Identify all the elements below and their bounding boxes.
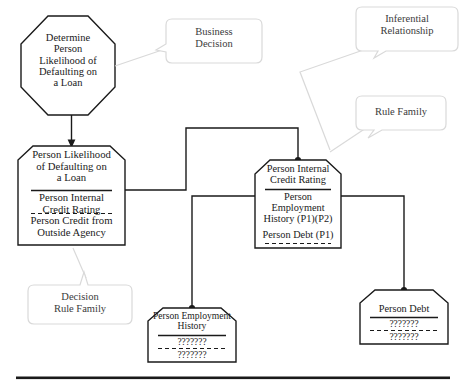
connector-credit-rating-to-employment (192, 196, 255, 308)
node-shape-person-internal-credit-rating[interactable] (255, 160, 341, 248)
diagram-canvas: Determine Person Likelihood of Defaultin… (0, 0, 466, 390)
callout-label-inferential-relationship: Inferential Relationship (356, 13, 458, 38)
callout-label-decision-rule-family: Decision Rule Family (28, 291, 132, 316)
bottom-divider (16, 377, 450, 380)
callout-label-business-decision: Business Decision (166, 26, 262, 51)
callout-label-rule-family: Rule Family (356, 106, 446, 118)
node-shape-decision-octagon[interactable] (21, 16, 115, 115)
connector-credit-rating-to-debt (341, 196, 404, 290)
node-shape-person-likelihood[interactable] (18, 146, 125, 245)
diagram-graphics (0, 0, 466, 390)
callout-leader-rule-family (330, 128, 366, 152)
